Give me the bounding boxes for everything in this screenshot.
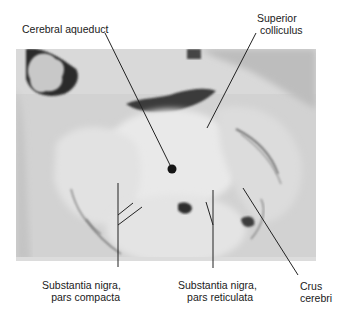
midbrain-photograph: [16, 49, 316, 261]
label-superior-colliculus: Superior colliculus: [257, 12, 303, 36]
label-substantia-nigra-compacta: Substantia nigra, pars compacta: [42, 279, 120, 303]
label-crus-cerebri: Crus cerebri: [300, 280, 332, 304]
label-cerebral-aqueduct: Cerebral aqueduct: [22, 23, 108, 35]
label-substantia-nigra-reticulata: Substantia nigra, pars reticulata: [178, 279, 253, 303]
midbrain-tissue-illustration: [16, 49, 316, 261]
